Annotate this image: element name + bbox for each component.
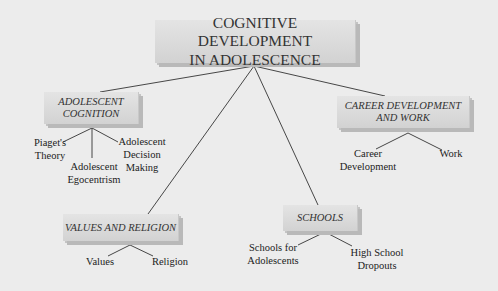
concept-map: COGNITIVE DEVELOPMENT IN ADOLESCENCE ADO…: [0, 0, 498, 291]
node-label: AND WORK: [376, 112, 429, 124]
leaf-piagets-theory: Piaget's Theory: [25, 137, 75, 163]
leaf-schools-for-adolescents: Schools for Adolescents: [240, 242, 306, 268]
node-label: ADOLESCENT: [58, 96, 123, 108]
leaf-values: Values: [78, 256, 122, 269]
leaf-adolescent-decision-making: Adolescent Decision Making: [114, 136, 170, 174]
root-title-line2: IN ADOLESCENCE: [189, 51, 320, 70]
node-schools: SCHOOLS: [283, 205, 358, 231]
node-label: SCHOOLS: [297, 212, 343, 224]
leaf-career-development: Career Development: [335, 148, 401, 174]
node-label: COGNITION: [63, 108, 120, 120]
root-title-line1: COGNITIVE DEVELOPMENT: [155, 14, 355, 51]
leaf-religion: Religion: [147, 256, 193, 269]
root-node: COGNITIVE DEVELOPMENT IN ADOLESCENCE: [155, 20, 356, 63]
node-values-religion: VALUES AND RELIGION: [63, 214, 179, 241]
node-label: CAREER DEVELOPMENT: [345, 100, 461, 112]
leaf-work: Work: [433, 148, 469, 161]
node-adolescent-cognition: ADOLESCENT COGNITION: [44, 92, 139, 124]
node-label: VALUES AND RELIGION: [65, 222, 176, 234]
node-career-development: CAREER DEVELOPMENT AND WORK: [337, 96, 470, 128]
leaf-high-school-dropouts: High School Dropouts: [346, 247, 408, 273]
